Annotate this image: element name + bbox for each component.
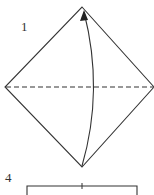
step-4-label: 4 [5,171,12,184]
origami-diagram: 1 4 [0,0,154,195]
fold-arrow-icon [82,12,94,166]
step-1-label: 1 [21,20,28,33]
